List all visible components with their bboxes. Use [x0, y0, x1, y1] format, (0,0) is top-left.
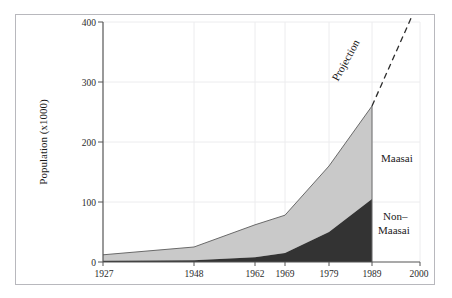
projection-group: Projection — [329, 18, 411, 106]
x-tick-label-2000: 2000 — [410, 269, 429, 279]
y-tick-label-200: 200 — [82, 138, 97, 148]
area-series-group — [103, 106, 372, 262]
y-axis-title: Population (x1000) — [37, 99, 50, 185]
projection-line — [372, 18, 411, 106]
y-tick-label-0: 0 — [91, 258, 96, 268]
y-tick-label-300: 300 — [82, 78, 97, 88]
series-annotations: Maasai Non– Maasai — [378, 152, 413, 236]
x-tick-label-1979: 1979 — [320, 269, 339, 279]
x-tick-label-1989: 1989 — [363, 269, 382, 279]
x-tick-label-1927: 1927 — [95, 269, 114, 279]
label-non-maasai-line2: Maasai — [378, 224, 410, 236]
population-growth-figure: Projection 400 300 200 100 0 192 — [0, 0, 452, 298]
x-tick-label-1969: 1969 — [276, 269, 295, 279]
label-maasai: Maasai — [381, 152, 413, 164]
x-tick-label-1962: 1962 — [246, 269, 265, 279]
x-tick-label-1948: 1948 — [185, 269, 204, 279]
projection-label: Projection — [329, 37, 362, 83]
label-non-maasai-line1: Non– — [383, 210, 408, 222]
stacked-area-chart: Projection 400 300 200 100 0 192 — [0, 0, 452, 298]
y-tick-label-100: 100 — [82, 198, 97, 208]
y-tick-label-400: 400 — [82, 18, 97, 28]
